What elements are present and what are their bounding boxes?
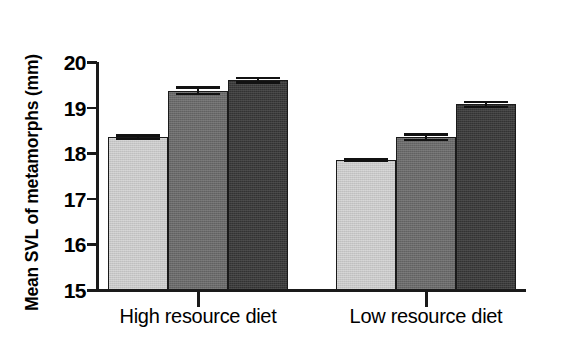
bar-1-3 bbox=[228, 80, 288, 290]
plot-area bbox=[96, 62, 526, 290]
bar-chart: Mean SVL of metamorphs (mm) 151617181920… bbox=[0, 0, 564, 347]
x-axis-label-1: High resource diet bbox=[120, 305, 277, 328]
y-tick-label-18: 18 bbox=[40, 143, 86, 164]
error-cap-top bbox=[116, 134, 160, 137]
y-axis-tick-labels: 151617181920 bbox=[38, 0, 86, 347]
y-tick-label-17: 17 bbox=[40, 188, 86, 209]
y-tick-label-20: 20 bbox=[40, 52, 86, 73]
error-cap-top bbox=[236, 77, 280, 80]
bar-1-2 bbox=[168, 91, 228, 290]
error-cap-top bbox=[176, 86, 220, 89]
x-axis-label-2: Low resource diet bbox=[350, 305, 503, 328]
bar-1-1 bbox=[108, 137, 168, 290]
y-tick-label-16: 16 bbox=[40, 234, 86, 255]
bar-2-3 bbox=[456, 104, 516, 290]
bar-2-1 bbox=[336, 160, 396, 290]
error-cap-top bbox=[404, 133, 448, 136]
error-cap-top bbox=[464, 101, 508, 104]
y-tick-label-19: 19 bbox=[40, 97, 86, 118]
bar-2-2 bbox=[396, 137, 456, 290]
y-tick-label-15: 15 bbox=[40, 280, 86, 301]
